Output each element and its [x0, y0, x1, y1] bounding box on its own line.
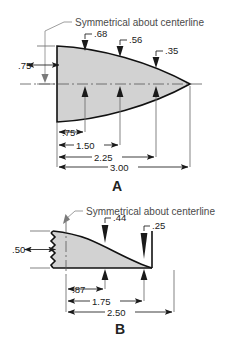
figure-b-station-arrow-1: [102, 269, 109, 280]
figure-a-ordinate-value-1: .68: [94, 28, 107, 39]
figure-a-ord2-leader: [120, 40, 127, 45]
figure-a-note-leader-arrow: [41, 74, 48, 83]
figure-b-ordinate-value-2: .25: [152, 220, 165, 231]
figure-a: Symmetrical about centerline .75 .68 .56…: [18, 17, 205, 194]
figure-b: Symmetrical about centerline .50 .44 .25…: [12, 206, 215, 337]
figure-b-overall-length-value: 2.50: [107, 307, 126, 318]
figure-a-ordinate-value-2: .56: [129, 34, 142, 45]
figure-a-ord3-leader: [156, 51, 163, 56]
figure-b-ord2-arrow: [141, 233, 148, 259]
figure-a-label: A: [112, 178, 122, 194]
figure-b-ord1-arrow: [102, 225, 109, 243]
figure-b-note-text: Symmetrical about centerline: [86, 206, 215, 217]
figure-a-overall-length-value: 3.00: [110, 162, 129, 173]
figure-a-height-value: .75: [18, 60, 31, 71]
engineering-drawing-canvas: Symmetrical about centerline .75 .68 .56…: [0, 0, 249, 341]
figure-b-height-value: .50: [12, 244, 25, 255]
figure-b-label: B: [115, 321, 125, 337]
figure-a-station-value-1: .75: [62, 127, 75, 138]
figure-b-ord1-leader: [105, 218, 111, 223]
figure-b-station-arrow-2: [141, 269, 148, 280]
figure-a-ordinate-value-3: .35: [165, 45, 178, 56]
figure-b-station-value-2: 1.75: [92, 296, 111, 307]
figure-b-ord2-leader: [144, 226, 150, 231]
figure-a-ord1-leader: [85, 34, 92, 39]
figure-b-note-leader-arrow: [63, 214, 70, 224]
figure-a-station-value-2: 1.50: [76, 140, 95, 151]
figure-a-note-text: Symmetrical about centerline: [75, 17, 204, 28]
figure-b-ordinate-value-1: .44: [113, 212, 126, 223]
figure-b-station-value-1: .87: [72, 284, 85, 295]
